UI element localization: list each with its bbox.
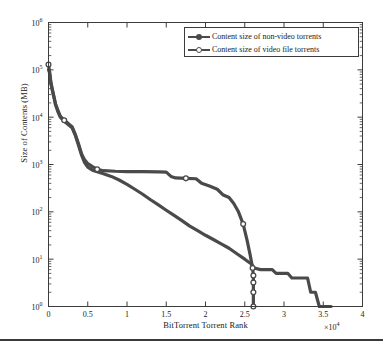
chart-legend: Content size of non-video torrents Conte… bbox=[184, 27, 359, 57]
series-marker-video bbox=[241, 222, 246, 227]
x-multiplier-base: ×10 bbox=[324, 323, 337, 332]
x-tick-label: 0 bbox=[37, 310, 61, 319]
x-multiplier-exponent: 4 bbox=[337, 321, 340, 327]
series-line-non-video bbox=[49, 70, 332, 307]
x-tick-label: 4 bbox=[351, 310, 375, 319]
legend-entry-non-video: Content size of non-video torrents bbox=[188, 30, 355, 43]
series-marker-video bbox=[251, 280, 256, 285]
x-tick-label: 1 bbox=[115, 310, 139, 319]
x-tick-label: 0.5 bbox=[76, 310, 100, 319]
y-tick-label: 106 bbox=[17, 17, 43, 28]
x-axis-multiplier: ×104 bbox=[324, 321, 340, 332]
x-axis-title: BitTorrent Torrent Rank bbox=[48, 320, 363, 330]
x-tick-label: 3.5 bbox=[311, 310, 335, 319]
y-tick-label: 103 bbox=[17, 159, 43, 170]
x-tick-label: 1.5 bbox=[154, 310, 178, 319]
series-marker-video bbox=[251, 290, 256, 295]
legend-sample-filled-dot-icon bbox=[188, 31, 210, 42]
series-marker-video bbox=[250, 266, 255, 271]
y-tick-label: 104 bbox=[17, 112, 43, 123]
y-tick-label: 101 bbox=[17, 254, 43, 265]
legend-entry-video: Content size of video file torrents bbox=[188, 43, 355, 56]
legend-label-video: Content size of video file torrents bbox=[212, 45, 319, 54]
series-line-video bbox=[49, 64, 254, 306]
x-tick-label: 2.5 bbox=[233, 310, 257, 319]
x-tick-label: 3 bbox=[272, 310, 296, 319]
legend-label-non-video: Content size of non-video torrents bbox=[212, 32, 321, 41]
y-tick-label: 102 bbox=[17, 206, 43, 217]
page-divider-rule bbox=[0, 339, 383, 341]
series-marker-video bbox=[183, 176, 188, 181]
legend-sample-open-circle-icon bbox=[188, 44, 210, 55]
x-tick-label: 2 bbox=[194, 310, 218, 319]
plot-frame bbox=[49, 23, 363, 307]
series-marker-video bbox=[251, 273, 256, 278]
figure-container: Size of Contents (MB) BitTorrent Torrent… bbox=[0, 0, 383, 351]
series-marker-video bbox=[62, 118, 67, 123]
series-marker-video bbox=[95, 167, 100, 172]
y-tick-label: 105 bbox=[17, 64, 43, 75]
